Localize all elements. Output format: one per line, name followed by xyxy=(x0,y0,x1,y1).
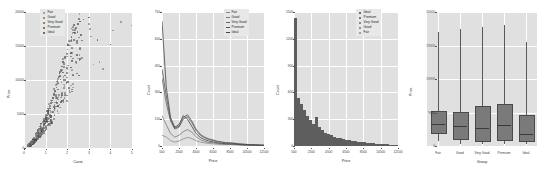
y-tick-label: 15000 xyxy=(413,44,435,48)
panel-lines: Count Price FairGoodVery GoodPremiumIdea… xyxy=(140,0,270,171)
scatter-point xyxy=(39,136,41,138)
scatter-point xyxy=(93,64,95,66)
y-tick-mark xyxy=(160,39,162,40)
scatter-point xyxy=(57,89,59,91)
scatter-point xyxy=(71,91,73,93)
x-tick-mark xyxy=(381,148,382,150)
scatter-point xyxy=(43,118,45,120)
scatter-point xyxy=(88,17,90,19)
boxplot-median xyxy=(497,125,511,126)
scatter-point xyxy=(46,120,48,122)
y-tick-label: 750 xyxy=(138,10,160,14)
line-series xyxy=(162,78,264,145)
legend-item[interactable]: Ideal xyxy=(226,30,247,35)
y-tick-label: 300 xyxy=(138,90,160,94)
scatter-point xyxy=(67,81,69,83)
y-tick-mark xyxy=(293,92,295,93)
y-tick-mark xyxy=(160,119,162,120)
x-tick-mark xyxy=(179,148,180,150)
x-tick-mark xyxy=(89,149,90,151)
legend-swatch-dot-icon xyxy=(42,11,46,15)
legend-swatch-line-icon xyxy=(226,31,230,35)
legend-swatch-dot-icon xyxy=(358,16,362,20)
scatter-point xyxy=(70,92,72,94)
legend-swatch-dot-icon xyxy=(358,26,362,30)
y-tick-mark xyxy=(24,80,26,81)
scatter-point xyxy=(63,62,65,64)
scatter-point xyxy=(47,111,49,113)
x-tick-label: 0 xyxy=(14,151,34,155)
x-tick-mark xyxy=(398,148,399,150)
legend-item[interactable]: Ideal xyxy=(42,30,63,35)
gridline-vertical xyxy=(329,12,330,146)
y-tick-label: 5000 xyxy=(413,111,435,115)
scatter-point xyxy=(66,82,68,84)
y-tick-label: 1500 xyxy=(271,10,293,14)
scatter-point xyxy=(64,94,66,96)
boxplot-box xyxy=(431,111,447,134)
scatter-point xyxy=(59,71,61,73)
scatter-point xyxy=(45,117,47,119)
scatter-point xyxy=(33,141,35,143)
panel2-legend[interactable]: FairGoodVery GoodPremiumIdeal xyxy=(224,9,249,36)
scatter-point xyxy=(63,87,65,89)
scatter-point xyxy=(78,18,80,20)
panel3-x-axis-label: Price xyxy=(294,159,398,163)
legend-item[interactable]: Fair xyxy=(358,30,379,35)
legend-swatch-line-icon xyxy=(226,11,230,15)
gridline-horizontal xyxy=(24,46,132,47)
scatter-point xyxy=(28,145,30,147)
line-series xyxy=(162,69,264,145)
x-tick-mark xyxy=(311,148,312,150)
histogram-bar xyxy=(395,145,398,146)
panel2-plot-area xyxy=(162,12,264,146)
y-tick-label: 600 xyxy=(271,90,293,94)
panel1-x-axis-label: Carat xyxy=(24,160,132,164)
scatter-point xyxy=(48,123,50,125)
y-tick-label: 20000 xyxy=(413,10,435,14)
panel1-legend[interactable]: FairGoodVery GoodPremiumIdeal xyxy=(40,9,65,36)
panel4-plot-area xyxy=(427,12,537,146)
scatter-point xyxy=(66,72,68,74)
scatter-point xyxy=(76,73,78,75)
scatter-point xyxy=(102,68,104,70)
scatter-point xyxy=(62,58,64,60)
y-tick-label: 10000 xyxy=(413,77,435,81)
scatter-point xyxy=(47,112,49,114)
scatter-point xyxy=(77,23,79,25)
scatter-point xyxy=(60,97,62,99)
scatter-point xyxy=(73,39,75,41)
scatter-point xyxy=(62,72,64,74)
legend-swatch-dot-icon xyxy=(42,16,46,20)
y-tick-label: 0 xyxy=(138,144,160,148)
scatter-point xyxy=(66,67,68,69)
gridline-horizontal xyxy=(294,12,398,13)
y-tick-label: 20000 xyxy=(2,10,24,14)
panel3-plot-area xyxy=(294,12,398,146)
scatter-point xyxy=(57,99,59,101)
scatter-point xyxy=(57,105,59,107)
gridline-vertical xyxy=(381,12,382,146)
x-tick-mark xyxy=(110,149,111,151)
scatter-point xyxy=(57,110,59,112)
scatter-point xyxy=(48,117,50,119)
scatter-point xyxy=(78,37,80,39)
y-tick-mark xyxy=(160,146,162,147)
scatter-point xyxy=(43,120,45,122)
x-tick-label: Very Good xyxy=(471,151,493,155)
x-tick-mark xyxy=(230,148,231,150)
y-tick-mark xyxy=(435,113,437,114)
panel1-y-axis-label: Price xyxy=(7,89,11,98)
scatter-point xyxy=(36,133,38,135)
legend-swatch-dot-icon xyxy=(358,11,362,15)
scatter-point xyxy=(52,111,54,113)
scatter-point xyxy=(66,56,68,58)
x-tick-label: Good xyxy=(449,151,471,155)
x-tick-mark xyxy=(162,148,163,150)
scatter-point xyxy=(79,21,81,23)
scatter-point xyxy=(76,54,78,56)
legend-swatch-line-icon xyxy=(226,16,230,20)
y-tick-label: 300 xyxy=(271,117,293,121)
y-tick-label: 0 xyxy=(271,144,293,148)
panel3-legend[interactable]: IdealPremiumVery GoodGoodFair xyxy=(356,9,381,36)
